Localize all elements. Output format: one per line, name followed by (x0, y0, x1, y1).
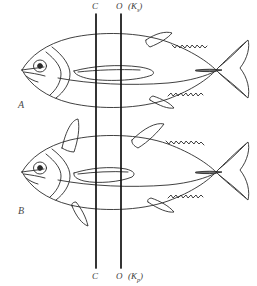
fish-a-pectoral-detail (78, 70, 140, 72)
specimen-label-a: A (18, 100, 24, 110)
fish-b-lateral-line (58, 173, 216, 186)
fish-b-first-dorsal-fin (62, 119, 79, 152)
fish-b-body-outline (22, 135, 216, 209)
label-o-bottom: O (116, 272, 123, 281)
label-c-top: C (92, 2, 98, 11)
label-kp-paren-close: ) (140, 271, 143, 281)
fish-a-caudal-fin (216, 40, 249, 98)
fish-a-eye-pupil (38, 64, 43, 69)
label-o-top-text: O (116, 1, 123, 11)
label-o-bottom-text: O (116, 271, 123, 281)
label-ks-paren-close: ) (139, 1, 142, 11)
fish-b-preoperculum (46, 154, 61, 197)
label-o-top: O (116, 2, 123, 11)
fish-b-mouth-line (24, 174, 45, 178)
fish-a-caudal-keel (196, 69, 222, 71)
fish-morphometry-diagram (0, 0, 257, 286)
fish-a-group (22, 32, 249, 108)
fish-a-preoperculum (46, 52, 61, 95)
fish-a-dorsal-finlets (172, 45, 207, 48)
fish-b-group (22, 119, 249, 226)
fish-a-mouth-line (24, 72, 45, 76)
fish-a-ventral-finlets (168, 93, 203, 96)
fish-a-pectoral-fin (74, 66, 154, 81)
label-c-top-text: C (92, 1, 98, 11)
label-c-bottom-text: C (92, 271, 98, 281)
fish-a-lateral-line (58, 71, 216, 84)
fish-b-caudal-fin (216, 142, 249, 200)
fish-b-dorsal-finlets (166, 141, 204, 145)
fish-b-second-dorsal-fin (132, 124, 164, 148)
fish-b-pectoral-fin (74, 168, 134, 183)
fish-b-caudal-keel (196, 171, 222, 173)
fish-b-eye-pupil (38, 166, 43, 171)
label-ks-top: (Ks) (128, 2, 142, 13)
label-kp-bottom: (Kp) (128, 272, 143, 283)
fish-a-dorsal-fin (146, 32, 172, 47)
fish-b-ventral-finlets (168, 195, 203, 198)
specimen-label-b: B (18, 206, 24, 216)
label-c-bottom: C (92, 272, 98, 281)
